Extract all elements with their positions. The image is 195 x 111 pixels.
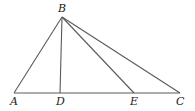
triangle-diagram: B A D E C [0, 0, 195, 111]
segment-BD [60, 17, 62, 93]
segment-BA [14, 17, 62, 93]
label-A: A [9, 95, 18, 108]
segment-BC [62, 17, 180, 93]
label-C: C [176, 95, 185, 108]
label-E: E [129, 95, 138, 108]
label-D: D [55, 95, 65, 108]
segment-BE [62, 17, 134, 93]
label-B: B [57, 2, 66, 15]
